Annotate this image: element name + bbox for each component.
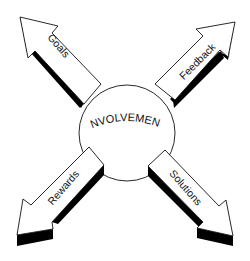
- rewards-arrow: Rewards: [17, 147, 104, 246]
- involvement-diagram: Goals Feedback INVOLVEMENT Rewards Solut…: [0, 0, 250, 261]
- solutions-arrow: Solutions: [148, 150, 233, 246]
- goals-arrow: Goals: [20, 17, 101, 108]
- feedback-arrow: Feedback: [155, 22, 235, 108]
